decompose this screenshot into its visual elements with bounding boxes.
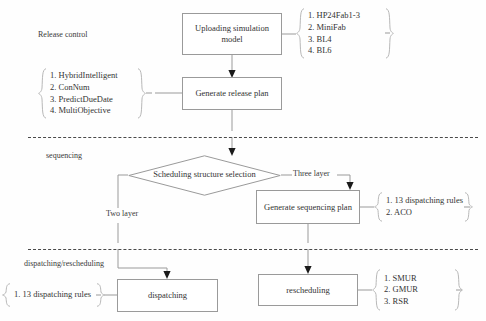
list-item: 3. BL4	[308, 34, 360, 46]
node-rescheduling[interactable]: rescheduling	[258, 274, 358, 306]
list-item: 2. ConNum	[50, 82, 118, 94]
node-label: Generate release plan	[195, 88, 268, 99]
flowchart-diagram: Release control sequencing dispatching/r…	[0, 0, 486, 321]
brace-close-icon	[464, 192, 473, 222]
list-item: 2. ACO	[386, 207, 463, 219]
option-items: 1. 13 dispatching rules	[11, 289, 93, 301]
brace-open-icon	[38, 68, 47, 119]
stage-separator-sequencing	[28, 137, 478, 138]
node-label: Scheduling structure selection	[128, 169, 281, 179]
list-item: 1. 13 dispatching rules	[386, 195, 463, 207]
list-item: 3. RSR	[384, 296, 418, 308]
brace-open-icon	[296, 8, 305, 59]
list-item: 1. SMUR	[384, 273, 418, 285]
list-item: 3. PredictDueDate	[50, 94, 118, 106]
brace-close-icon	[385, 8, 394, 59]
option-items: 1. SMUR 2. GMUR 3. RSR	[381, 273, 420, 308]
list-item: 4. BL6	[308, 45, 360, 57]
list-item: 1. HybridIntelligent	[50, 70, 118, 82]
option-items: 1. HP24Fab1-3 2. MiniFab 3. BL4 4. BL6	[305, 10, 362, 56]
brace-open-icon	[2, 283, 11, 307]
edge-label-three-layer: Three layer	[292, 169, 331, 178]
option-items: 1. HybridIntelligent 2. ConNum 3. Predic…	[47, 70, 120, 116]
stage-separator-dispatching	[28, 249, 478, 250]
list-item: 2. GMUR	[384, 284, 418, 296]
option-items: 1. 13 dispatching rules 2. ACO	[383, 195, 465, 218]
node-generate-release-plan[interactable]: Generate release plan	[182, 77, 282, 110]
list-item: 1. HP24Fab1-3	[308, 10, 360, 22]
node-label: rescheduling	[286, 285, 329, 296]
stage-label-dispatching-rescheduling: dispatching/rescheduling	[24, 259, 104, 268]
option-list-release-algorithm-options: 1. HybridIntelligent 2. ConNum 3. Predic…	[38, 68, 120, 119]
brace-close-icon	[96, 283, 105, 307]
option-list-model-options: 1. HP24Fab1-3 2. MiniFab 3. BL4 4. BL6	[296, 8, 362, 59]
brace-close-icon	[454, 269, 463, 311]
stage-label-release-control: Release control	[38, 30, 88, 39]
stage-label-sequencing: sequencing	[46, 151, 82, 160]
node-uploading-simulation-model[interactable]: Uploading simulation model	[182, 13, 282, 55]
brace-open-icon	[374, 192, 383, 222]
option-list-sequencing-algorithm-options: 1. 13 dispatching rules 2. ACO	[374, 192, 465, 222]
edge-label-two-layer: Two layer	[105, 209, 139, 218]
list-item: 4. MultiObjective	[50, 105, 118, 117]
option-list-dispatching-rule-options: 1. 13 dispatching rules	[2, 283, 93, 307]
brace-close-icon	[137, 68, 146, 119]
node-label: dispatching	[148, 290, 187, 301]
list-item: 1. 13 dispatching rules	[14, 289, 91, 301]
node-dispatching[interactable]: dispatching	[117, 279, 218, 312]
node-generate-sequencing-plan[interactable]: Generate sequencing plan	[256, 190, 360, 224]
list-item: 2. MiniFab	[308, 22, 360, 34]
node-label: Uploading simulation model	[189, 23, 275, 44]
node-label: Generate sequencing plan	[264, 202, 352, 213]
brace-open-icon	[372, 269, 381, 311]
option-list-rescheduling-method-options: 1. SMUR 2. GMUR 3. RSR	[372, 269, 420, 311]
